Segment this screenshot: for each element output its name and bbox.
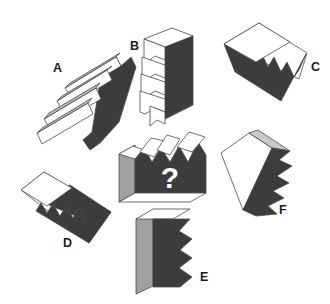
shape-e-dark-face [153,219,192,287]
shape-e-top-face [136,209,190,219]
option-shape-d[interactable]: D [21,172,111,250]
option-shape-c[interactable]: C [224,23,320,101]
option-shape-a[interactable]: A [37,53,136,150]
spatial-reasoning-puzzle: A B C [0,0,330,304]
shape-e-gray-face [136,211,153,294]
question-shape-base [119,193,206,202]
option-label-b: B [130,39,139,53]
option-shape-b[interactable]: B [130,28,193,126]
question-mark-label: ? [161,161,179,194]
question-shape: ? [119,132,206,202]
option-shape-e[interactable]: E [136,209,208,294]
puzzle-canvas: A B C [0,0,330,304]
option-label-f: F [279,203,287,217]
option-label-c: C [311,60,320,74]
option-label-a: A [53,61,62,75]
option-shape-f[interactable]: F [221,130,292,217]
option-label-e: E [200,270,208,284]
option-label-d: D [63,236,72,250]
